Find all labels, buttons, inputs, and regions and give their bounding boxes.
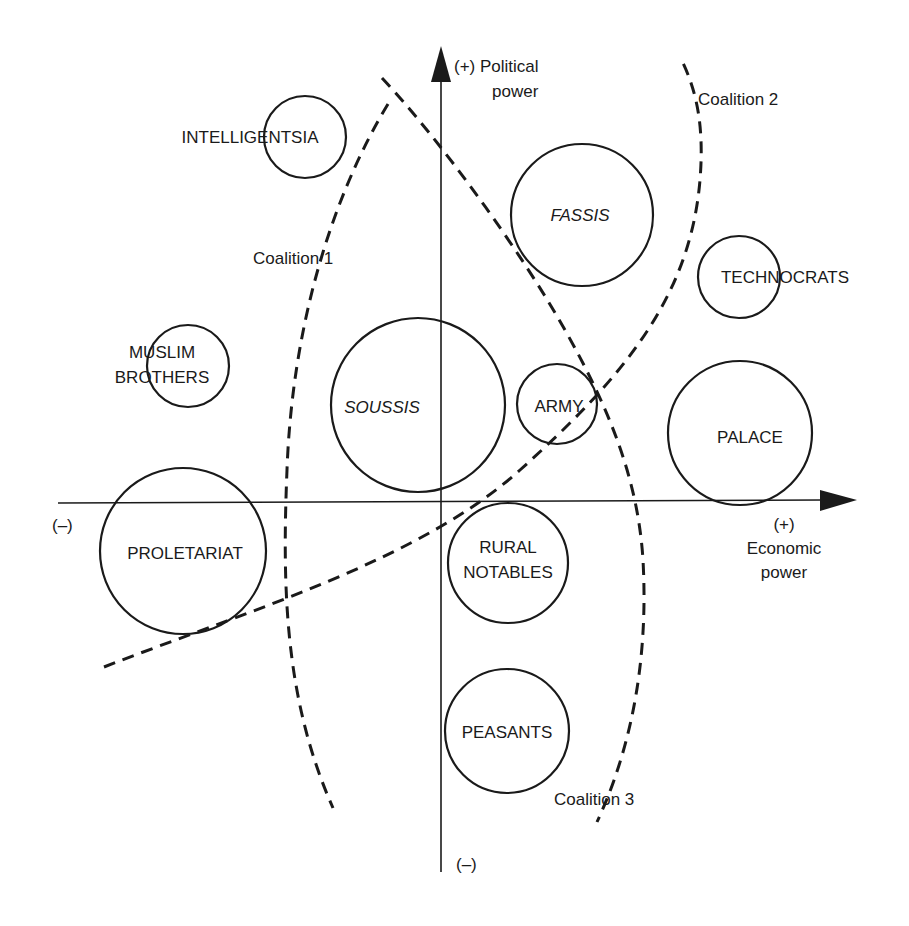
- coalition-1-label: Coalition 1: [253, 249, 333, 268]
- y-axis-top-label: (+) Political: [454, 57, 539, 76]
- muslim-brothers-label-2: BROTHERS: [115, 368, 209, 387]
- muslim-brothers-circle: [147, 325, 229, 407]
- coalition-2-boundary: [104, 63, 701, 667]
- fassis-label: FASSIS: [550, 206, 609, 225]
- army-label: ARMY: [534, 397, 583, 416]
- rural-notables-label-1: RURAL: [479, 538, 537, 557]
- x-axis-left-label: (–): [52, 516, 73, 535]
- positioning-diagram: [0, 0, 909, 926]
- y-axis-top-label-line2: power: [492, 82, 538, 101]
- proletariat-label: PROLETARIAT: [127, 544, 243, 563]
- y-axis-arrowhead-icon: [431, 46, 451, 82]
- coalition-3-boundary: [382, 78, 644, 822]
- peasants-label: PEASANTS: [462, 723, 553, 742]
- intelligentsia-label: INTELLIGENTSIA: [182, 128, 319, 147]
- x-axis: [58, 500, 822, 503]
- soussis-label: SOUSSIS: [344, 398, 420, 417]
- coalition-2-label: Coalition 2: [698, 90, 778, 109]
- muslim-brothers-label-1: MUSLIM: [129, 343, 195, 362]
- y-axis-bottom-label: (–): [456, 855, 477, 874]
- coalition-1-boundary: [285, 104, 388, 808]
- coalition-3-label: Coalition 3: [554, 790, 634, 809]
- technocrats-label: TECHNOCRATS: [721, 268, 849, 287]
- x-axis-right-label-3: power: [761, 563, 807, 582]
- rural-notables-label-2: NOTABLES: [463, 563, 552, 582]
- palace-label: PALACE: [717, 428, 783, 447]
- x-axis-arrowhead-icon: [820, 490, 857, 511]
- x-axis-right-label-1: (+): [773, 515, 794, 534]
- x-axis-right-label-2: Economic: [747, 539, 822, 558]
